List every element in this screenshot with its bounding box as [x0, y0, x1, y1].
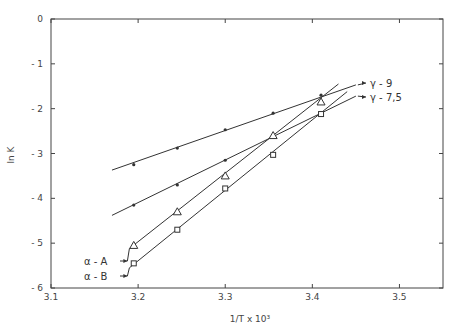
series-b [129, 92, 347, 268]
y-axis-label: ln K [6, 145, 16, 163]
arrow-head [362, 95, 366, 99]
data-point-square [319, 112, 324, 117]
series-label-text: γ - 7,5 [370, 92, 402, 103]
x-tick-label: 3.3 [218, 292, 232, 302]
data-point-square [271, 152, 276, 157]
fit-line [112, 85, 356, 170]
series-a [129, 84, 338, 249]
fit-line [129, 92, 347, 268]
plot-frame [51, 19, 443, 288]
connector-line [127, 249, 129, 261]
arrow-head [362, 81, 366, 85]
series-9 [112, 85, 356, 170]
connector-line [127, 268, 129, 276]
data-point-dot [224, 159, 227, 162]
series-label-text: γ - 9 [370, 78, 392, 89]
fit-line [129, 84, 338, 249]
y-tick-label: - 2 [31, 104, 43, 114]
arrow-head [123, 259, 127, 263]
x-tick-label: 3.4 [305, 292, 320, 302]
data-point-dot [132, 203, 135, 206]
y-tick-label: - 6 [31, 283, 43, 293]
data-point-square [131, 261, 136, 266]
label-gamma-7-5: γ - 7,5 [358, 92, 402, 103]
y-tick-label: 0 [37, 14, 43, 24]
y-tick-label: - 5 [31, 238, 43, 248]
x-tick-label: 3.2 [131, 292, 145, 302]
x-axis-label: 1/T x 10³ [230, 314, 271, 324]
label-alpha-b: α - B [84, 268, 129, 282]
data-point-dot [132, 163, 135, 166]
data-point-dot [176, 147, 179, 150]
series-layer [112, 84, 356, 268]
label-gamma-9: γ - 9 [358, 78, 392, 89]
y-tick-label: - 1 [31, 59, 43, 69]
series-label-text: α - B [84, 271, 108, 282]
data-point-triangle [317, 98, 325, 105]
y-tick-label: - 3 [31, 149, 43, 159]
series-labels: γ - 9γ - 7,5α - Aα - B [84, 78, 402, 282]
y-tick-label: - 4 [31, 193, 43, 203]
series-label-text: α - A [84, 256, 108, 267]
data-point-dot [176, 183, 179, 186]
data-point-square [223, 186, 228, 191]
data-point-square [175, 227, 180, 232]
label-alpha-a: α - A [84, 249, 129, 267]
x-tick-label: 3.5 [392, 292, 406, 302]
plot-border [51, 19, 443, 288]
chart: 3.13.23.33.43.5 0- 1- 2- 3- 4- 5- 6 1/T … [0, 0, 457, 333]
data-point-dot [224, 128, 227, 131]
data-point-dot [272, 112, 275, 115]
y-axis-ticks: 0- 1- 2- 3- 4- 5- 6 [31, 14, 443, 293]
x-tick-label: 3.1 [44, 292, 58, 302]
arrow-head [123, 274, 127, 278]
